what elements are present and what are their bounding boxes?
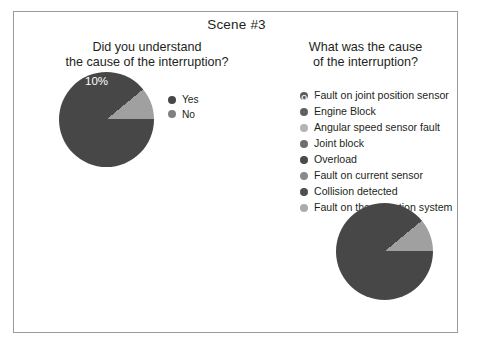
legend-item-label: Joint block xyxy=(314,138,364,150)
pie-slice-label-yes: 90% xyxy=(28,95,51,107)
legend-item-label: No xyxy=(182,109,195,120)
legend-item-label: Overload xyxy=(314,154,357,166)
legend-item-collision-detected[interactable]: Collision detected xyxy=(300,186,452,198)
panel-understand-cause: Did you understand the cause of the inte… xyxy=(22,40,272,240)
figure-frame: Scene #3 Did you understand the cause of… xyxy=(13,11,458,333)
legend-dot-icon xyxy=(168,96,176,104)
left-chart-question: Did you understand the cause of the inte… xyxy=(22,40,272,71)
legend-dot-icon xyxy=(168,110,176,118)
pie-slice-label-no: 10% xyxy=(85,75,108,87)
legend-understand-cause: Yes No xyxy=(168,94,199,123)
pie-chart-cause-of-interruption xyxy=(336,203,433,300)
figure-title: Scene #3 xyxy=(14,17,459,32)
legend-dot-icon xyxy=(300,204,308,212)
right-question-line-1: What was the cause xyxy=(272,40,459,55)
legend-item-label: Angular speed sensor fault xyxy=(314,122,440,134)
legend-item-label: Fault on joint position sensor xyxy=(314,90,449,102)
right-question-line-2: of the interruption? xyxy=(272,55,459,70)
legend-dot-icon xyxy=(300,108,308,116)
legend-item-label: Collision detected xyxy=(314,186,398,198)
legend-item-fault-joint-position-sensor[interactable]: Fault on joint position sensor xyxy=(300,90,452,102)
legend-item-label: Fault on current sensor xyxy=(314,170,423,182)
legend-item-yes[interactable]: Yes xyxy=(168,94,199,105)
legend-cause-of-interruption: Fault on joint position sensor Engine Bl… xyxy=(300,90,452,218)
legend-dot-icon xyxy=(300,188,308,196)
legend-dot-icon xyxy=(300,124,308,132)
legend-item-label: Yes xyxy=(182,94,199,105)
legend-item-angular-speed-sensor-fault[interactable]: Angular speed sensor fault xyxy=(300,122,452,134)
pie-slice-label-major: 89.9% xyxy=(285,93,318,105)
legend-item-overload[interactable]: Overload xyxy=(300,154,452,166)
legend-item-joint-block[interactable]: Joint block xyxy=(300,138,452,150)
legend-dot-icon xyxy=(300,156,308,164)
panel-cause-of-interruption: What was the cause of the interruption? … xyxy=(272,40,459,332)
legend-item-fault-on-current-sensor[interactable]: Fault on current sensor xyxy=(300,170,452,182)
legend-item-label: Engine Block xyxy=(314,106,376,118)
left-question-line-2: the cause of the interruption? xyxy=(22,55,272,70)
right-chart-question: What was the cause of the interruption? xyxy=(272,40,459,71)
legend-item-no[interactable]: No xyxy=(168,109,199,120)
legend-item-engine-block[interactable]: Engine Block xyxy=(300,106,452,118)
legend-dot-icon xyxy=(300,140,308,148)
legend-dot-icon xyxy=(300,172,308,180)
left-question-line-1: Did you understand xyxy=(22,40,272,55)
pie-slice-label-minor: 11.1% xyxy=(327,70,359,82)
